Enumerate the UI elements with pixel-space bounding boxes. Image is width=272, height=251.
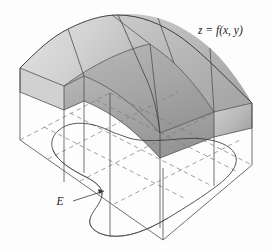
region-e-curve xyxy=(52,123,237,236)
solid-side-walls xyxy=(53,150,168,236)
surface-label: z = f(x, y) xyxy=(197,24,243,37)
region-label-e: E xyxy=(55,195,63,207)
region-e-leader xyxy=(73,189,104,201)
wall-left-profile xyxy=(53,150,102,195)
region-e-outline xyxy=(52,123,237,236)
wall-front-profile xyxy=(90,218,168,236)
box-base-edge-right-front xyxy=(163,165,252,240)
figure-container: E z = f(x, y) xyxy=(0,0,272,251)
box-base-edge-left-front xyxy=(20,140,163,240)
triple-integral-figure: E z = f(x, y) xyxy=(0,0,272,251)
